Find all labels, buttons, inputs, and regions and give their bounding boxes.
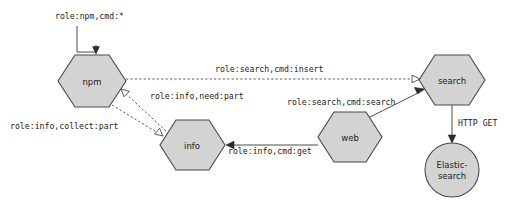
node-info[interactable]: info — [160, 120, 225, 170]
edge-label-npm-search: role:search,cmd:insert — [215, 64, 324, 74]
edge-label-npm-info: role:info,collect:part — [10, 121, 119, 131]
node-search[interactable]: search — [419, 55, 485, 105]
node-elasticsearch[interactable]: Elastic- search — [425, 143, 479, 197]
diagram-canvas: npm search info web Elastic- search role… — [0, 0, 509, 203]
edge-npm-search — [126, 75, 420, 83]
node-npm[interactable]: npm — [58, 55, 126, 107]
node-web-label: web — [341, 133, 359, 143]
node-search-label: search — [438, 76, 466, 86]
node-web[interactable]: web — [318, 112, 382, 162]
node-info-label: info — [184, 141, 200, 151]
edge-label-search-elasticsearch: HTTP GET — [458, 118, 498, 128]
edge-label-web-search: role:search,cmd:search — [287, 97, 396, 107]
edge-label-web-info: role:info,cmd:get — [228, 146, 312, 156]
node-elasticsearch-label-line1: Elastic- — [437, 160, 468, 170]
edge-label-info-npm: role:info,need:part — [150, 91, 244, 101]
node-elasticsearch-label-line2: search — [438, 171, 466, 181]
diagram-svg: npm search info web Elastic- search role… — [0, 0, 509, 203]
edge-label-npm-self: role:npm,cmd:* — [55, 11, 124, 21]
edge-search-elasticsearch — [448, 105, 456, 143]
edge-npm-self — [77, 26, 99, 54]
node-npm-label: npm — [82, 77, 101, 87]
